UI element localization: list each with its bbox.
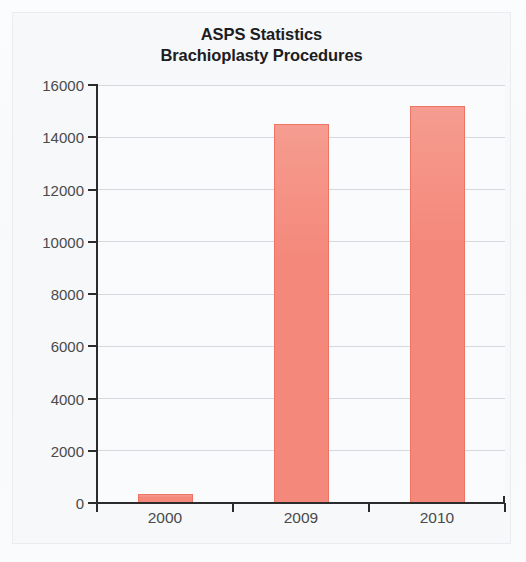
x-axis-tick (232, 503, 234, 512)
x-axis-tick-label: 2010 (377, 509, 497, 527)
y-axis-tick (88, 84, 97, 86)
y-axis-tick-label: 8000 (6, 287, 84, 302)
y-axis-tick-label: 0 (6, 496, 84, 511)
bar-highlight (139, 495, 192, 502)
x-axis-origin-tick (96, 503, 98, 512)
bar-highlight (275, 125, 328, 502)
x-axis-line (96, 502, 505, 504)
bar-chart-figure: ASPS Statistics Brachioplasty Procedures… (0, 0, 526, 562)
bar (274, 124, 329, 503)
y-axis-tick (88, 189, 97, 191)
y-axis-tick (88, 293, 97, 295)
y-axis-tick (88, 450, 97, 452)
plot-area (97, 85, 505, 503)
x-axis-tick-label: 2000 (105, 509, 225, 527)
y-axis-tick-label: 16000 (6, 78, 84, 93)
bar-highlight (411, 107, 464, 502)
y-axis-tick-label: 4000 (6, 392, 84, 407)
y-axis-tick (88, 136, 97, 138)
y-axis-tick-label: 2000 (6, 444, 84, 459)
y-axis-tick (88, 345, 97, 347)
gridline (97, 85, 505, 86)
y-axis-tick (88, 241, 97, 243)
y-axis-tick-label: 12000 (6, 183, 84, 198)
y-axis-tick (88, 398, 97, 400)
bar (410, 106, 465, 503)
y-axis-tick-label: 14000 (6, 130, 84, 145)
y-axis-tick-label: 10000 (6, 235, 84, 250)
x-axis-tick-label: 2009 (241, 509, 361, 527)
chart-title-line-2: Brachioplasty Procedures (12, 45, 511, 66)
x-axis-tick (368, 503, 370, 512)
chart-title: ASPS Statistics Brachioplasty Procedures (12, 24, 511, 66)
x-axis-tick (504, 503, 506, 512)
chart-title-line-1: ASPS Statistics (201, 25, 322, 43)
y-axis-labels-group: 0200040006000800010000120001400016000 (0, 0, 84, 562)
y-axis-tick-label: 6000 (6, 339, 84, 354)
